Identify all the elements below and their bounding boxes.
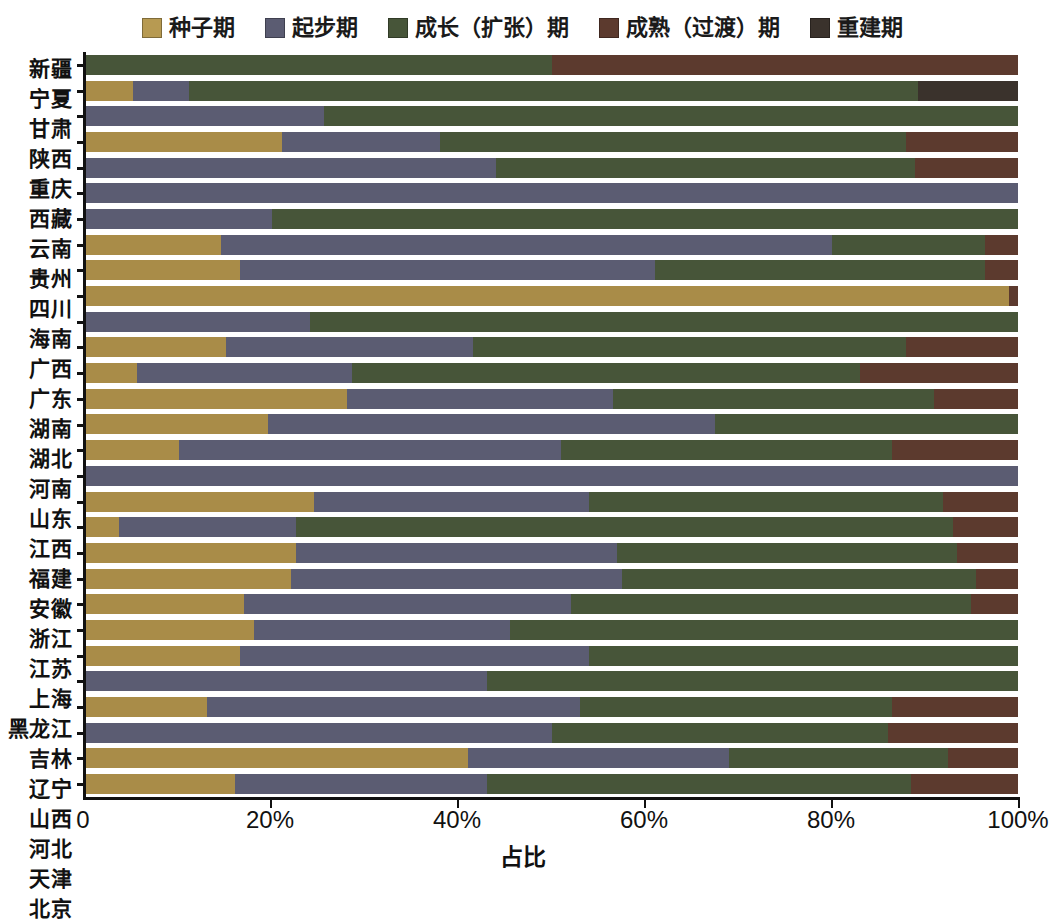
bar-segment-mature: [957, 543, 1018, 563]
y-axis-tick: [77, 141, 86, 144]
x-axis-tick-label: 40%: [433, 806, 481, 834]
y-axis-tick: [77, 244, 86, 247]
bar-segment-startup: [347, 389, 613, 409]
bar-row: [86, 78, 1018, 104]
stacked-bar: [86, 158, 1018, 178]
x-axis-tick-label: 0: [76, 806, 89, 834]
stacked-bar: [86, 517, 1018, 537]
bar-segment-growth: [510, 620, 1018, 640]
bar-segment-growth: [487, 671, 1018, 691]
legend-swatch-growth: [388, 18, 408, 38]
x-axis-line: [83, 797, 1018, 800]
bar-row: [86, 489, 1018, 515]
bar-segment-startup: [137, 363, 351, 383]
y-axis-tick: [77, 90, 86, 93]
stacked-bar: [86, 492, 1018, 512]
bar-segment-startup: [235, 774, 487, 794]
bar-row: [86, 52, 1018, 78]
bar-segment-mature: [892, 697, 1018, 717]
stacked-bar: [86, 55, 1018, 75]
legend-item-rebuild: 重建期: [810, 17, 903, 39]
bar-segment-growth: [622, 569, 976, 589]
y-axis-label: 海南: [0, 322, 78, 352]
bar-segment-startup: [240, 260, 655, 280]
bar-segment-mature: [906, 132, 1018, 152]
bar-segment-startup: [254, 620, 510, 640]
bar-segment-seed: [86, 774, 235, 794]
bar-row: [86, 643, 1018, 669]
y-axis-label: 山东: [0, 502, 78, 532]
y-axis-label: 重庆: [0, 172, 78, 202]
bar-row: [86, 283, 1018, 309]
stacked-bar: [86, 594, 1018, 614]
stacked-bar: [86, 337, 1018, 357]
y-axis-labels: 新疆宁夏甘肃陕西重庆西藏云南贵州四川海南广西广东湖南湖北河南山东江西福建安徽浙江…: [0, 52, 78, 797]
bar-segment-growth: [580, 697, 892, 717]
stacked-bar: [86, 414, 1018, 434]
legend-item-growth: 成长（扩张）期: [388, 17, 569, 39]
bar-row: [86, 155, 1018, 181]
bar-segment-mature: [1009, 286, 1018, 306]
stacked-bar: [86, 543, 1018, 563]
bar-segment-seed: [86, 492, 314, 512]
bar-row: [86, 103, 1018, 129]
bar-segment-seed: [86, 697, 207, 717]
bar-segment-startup: [244, 594, 570, 614]
bar-row: [86, 720, 1018, 746]
x-axis-tick-labels: 020%40%60%80%100%: [0, 806, 1045, 840]
stacked-bar: [86, 569, 1018, 589]
legend-item-startup: 起步期: [265, 17, 358, 39]
bar-row: [86, 463, 1018, 489]
bar-segment-growth: [715, 414, 1018, 434]
bar-row: [86, 566, 1018, 592]
bar-row: [86, 617, 1018, 643]
bar-segment-seed: [86, 337, 226, 357]
bar-segment-seed: [86, 543, 296, 563]
stacked-bar: [86, 620, 1018, 640]
y-axis-tick: [77, 218, 86, 221]
bar-row: [86, 540, 1018, 566]
stacked-bar: [86, 183, 1018, 203]
y-axis-label: 上海: [0, 682, 78, 712]
y-axis-label: 宁夏: [0, 82, 78, 112]
stacked-bar: [86, 671, 1018, 691]
y-axis-tick: [77, 757, 86, 760]
bar-segment-growth: [617, 543, 957, 563]
bar-segment-mature: [943, 492, 1018, 512]
bar-segment-mature: [906, 337, 1018, 357]
bar-segment-seed: [86, 620, 254, 640]
bar-segment-mature: [985, 235, 1018, 255]
bar-segment-startup: [86, 158, 496, 178]
stacked-bar: [86, 209, 1018, 229]
stacked-bar: [86, 697, 1018, 717]
bar-segment-startup: [86, 183, 1018, 203]
bar-segment-startup: [268, 414, 715, 434]
y-axis-label: 河南: [0, 472, 78, 502]
bar-row: [86, 309, 1018, 335]
stacked-bar: [86, 312, 1018, 332]
y-axis-label: 辽宁: [0, 772, 78, 802]
bar-segment-growth: [552, 723, 888, 743]
bar-segment-mature: [971, 594, 1018, 614]
stacked-bar: [86, 286, 1018, 306]
y-axis-tick: [77, 552, 86, 555]
y-axis-tick: [77, 655, 86, 658]
y-axis-tick: [77, 64, 86, 67]
bar-row: [86, 694, 1018, 720]
stacked-bar: [86, 389, 1018, 409]
stacked-bar: [86, 260, 1018, 280]
bar-segment-growth: [655, 260, 986, 280]
bar-row: [86, 591, 1018, 617]
y-axis-tick: [77, 115, 86, 118]
bar-segment-startup: [86, 312, 310, 332]
bar-segment-growth: [589, 492, 943, 512]
bar-row: [86, 180, 1018, 206]
bar-segment-startup: [119, 517, 296, 537]
y-axis-label: 安徽: [0, 592, 78, 622]
legend-item-mature: 成熟（过渡）期: [599, 17, 780, 39]
bar-segment-mature: [860, 363, 1018, 383]
bar-segment-startup: [291, 569, 622, 589]
bar-segment-growth: [571, 594, 972, 614]
bar-segment-growth: [613, 389, 935, 409]
plot-area: [83, 52, 1018, 797]
